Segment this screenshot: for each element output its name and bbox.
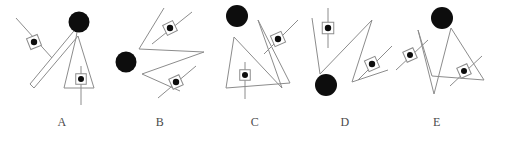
dot-d-2	[369, 61, 375, 67]
black-circle-e	[431, 7, 453, 29]
marker-square-c-2	[240, 62, 251, 99]
dot-c-1	[275, 36, 281, 42]
marker-square-d-2	[358, 46, 392, 80]
marker-square-a-1	[16, 18, 52, 58]
dot-a-2	[78, 76, 84, 82]
marker-square-e-1	[396, 40, 428, 70]
black-circle-c	[226, 5, 248, 27]
marker-square-b-2	[158, 66, 196, 98]
figure-d-graphic	[302, 0, 402, 115]
figure-panel-d[interactable]	[302, 0, 402, 115]
figure-panel-e[interactable]	[398, 0, 506, 115]
figure-label-a: A	[50, 113, 74, 131]
figure-label-c: C	[243, 113, 267, 131]
marker-square-d-1	[322, 8, 334, 48]
figure-b-graphic	[108, 0, 208, 115]
figure-label-row: A B C D E	[0, 113, 509, 143]
dot-b-2	[173, 79, 179, 85]
figure-label-b: B	[148, 113, 172, 131]
dot-e-2	[461, 68, 467, 74]
dot-a-1	[31, 39, 37, 45]
black-circle-a	[69, 12, 90, 33]
figure-c-graphic	[212, 0, 312, 115]
dot-c-2	[242, 72, 248, 78]
dot-d-1	[325, 25, 331, 31]
marker-square-b-1	[152, 12, 192, 44]
zigzag-polyline-e	[418, 28, 484, 94]
figure-panel-a[interactable]	[8, 0, 108, 115]
black-circle-b	[116, 52, 137, 73]
dot-e-1	[407, 52, 413, 58]
zigzag-polyline-c	[226, 20, 290, 88]
figure-e-graphic	[398, 0, 506, 115]
figure-panel-b[interactable]	[108, 0, 208, 115]
figure-label-e: E	[425, 113, 449, 131]
figure-label-d: D	[333, 113, 357, 131]
marker-square-c-1	[264, 20, 298, 54]
black-circle-d	[315, 74, 337, 96]
figure-comparison-puzzle: A B C D E	[0, 0, 509, 143]
figure-a-graphic	[8, 0, 108, 115]
dot-b-1	[167, 25, 173, 31]
marker-square-e-2	[450, 56, 482, 86]
marker-square-a-2	[76, 66, 87, 105]
figure-panel-c[interactable]	[212, 0, 312, 115]
